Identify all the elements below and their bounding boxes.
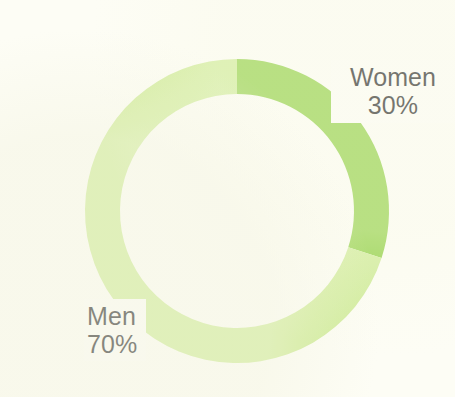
donut-chart: Women 30% Men 70% [0, 0, 455, 397]
slice-label-men-name: Men [87, 302, 146, 330]
slice-label-men: Men 70% [84, 299, 146, 361]
slice-label-men-value: 70% [87, 330, 146, 358]
slice-label-women-value: 30% [331, 91, 455, 119]
slice-label-women: Women 30% [331, 60, 455, 123]
slice-label-women-name: Women [331, 63, 455, 91]
